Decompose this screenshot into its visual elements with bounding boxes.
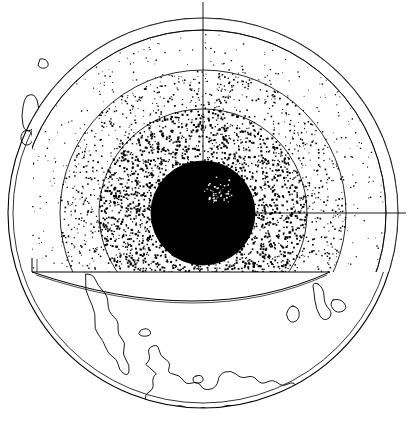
limb-landmass-notch xyxy=(38,59,48,68)
earth-cutaway-illustration xyxy=(0,0,407,425)
earth-interior-figure: Cutaway diagram of the internal structur… xyxy=(0,0,407,425)
